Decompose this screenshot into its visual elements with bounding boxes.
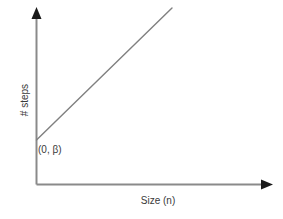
plot-canvas bbox=[0, 0, 283, 219]
x-axis-label: Size (n) bbox=[108, 196, 208, 206]
chart-figure: # steps Size (n) (0, β) bbox=[0, 0, 283, 219]
y-axis-label: # steps bbox=[20, 80, 30, 120]
x-axis-arrowhead-icon bbox=[261, 180, 273, 190]
y-axis-arrowhead-icon bbox=[32, 7, 42, 19]
data-series-line bbox=[37, 8, 173, 140]
y-intercept-annotation: (0, β) bbox=[38, 145, 62, 155]
